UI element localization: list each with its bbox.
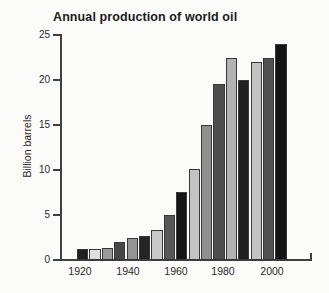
bar-1965 [189, 169, 200, 260]
bar-1995 [263, 58, 274, 261]
chart-title: Annual production of world oil [53, 10, 237, 24]
bar-1985 [238, 80, 249, 260]
bar-2000 [275, 44, 286, 260]
y-tick-15 [53, 124, 60, 126]
oil-production-chart: Annual production of world oil Billion b… [0, 0, 329, 293]
y-tick-0 [53, 259, 60, 261]
y-tick-label-5: 5 [28, 209, 50, 221]
y-tick-label-20: 20 [28, 74, 50, 86]
bar-1945 [139, 236, 150, 260]
x-axis-end-tick [310, 253, 312, 260]
bar-1940 [127, 238, 138, 261]
bar-1970 [201, 125, 212, 260]
y-tick-label-15: 15 [28, 119, 50, 131]
bar-1955 [164, 215, 175, 260]
x-tick-label-2000: 2000 [252, 265, 292, 277]
bar-1980 [226, 58, 237, 261]
x-tick-label-1940: 1940 [108, 265, 148, 277]
bar-1990 [251, 62, 262, 260]
y-tick-5 [53, 214, 60, 216]
bar-1960 [176, 192, 187, 260]
x-tick-label-1960: 1960 [156, 265, 196, 277]
bar-1975 [213, 84, 224, 260]
y-tick-25 [53, 34, 60, 36]
y-tick-label-0: 0 [28, 254, 50, 266]
x-tick-label-1980: 1980 [203, 265, 243, 277]
bar-1930 [102, 248, 113, 260]
y-tick-label-10: 10 [28, 164, 50, 176]
bar-1925 [89, 249, 100, 260]
y-tick-20 [53, 79, 60, 81]
y-axis-line [60, 34, 62, 261]
bar-1950 [151, 230, 162, 260]
y-tick-10 [53, 169, 60, 171]
y-tick-label-25: 25 [28, 29, 50, 41]
bar-1935 [114, 242, 125, 260]
x-tick-label-1920: 1920 [60, 265, 100, 277]
bar-1920 [77, 249, 88, 260]
